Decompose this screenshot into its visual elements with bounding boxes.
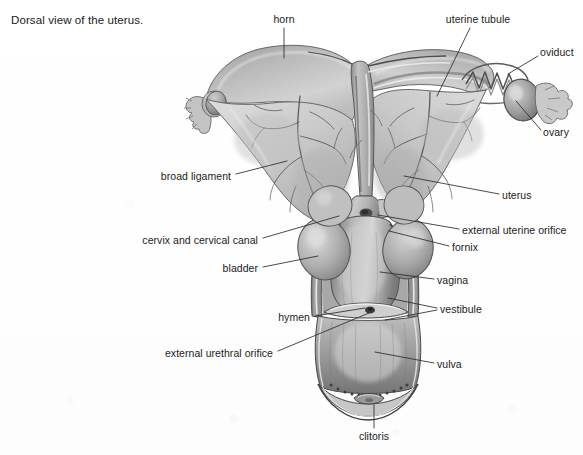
label-external-urethral-orifice: external urethral orifice [0,348,273,359]
label-clitoris: clitoris [314,431,434,442]
right-ovary [500,76,572,125]
vestibule [315,316,421,394]
label-uterine-tubule: uterine tubule [418,14,538,25]
label-fornix: fornix [452,242,478,253]
label-cervix-and-cervical-canal: cervix and cervical canal [0,235,258,246]
broad-ligament-right [366,90,486,214]
label-hymen: hymen [0,312,310,323]
label-horn: horn [224,14,344,25]
label-bladder: bladder [0,263,258,274]
clitoris [354,394,384,405]
label-uterus: uterus [502,190,531,201]
label-external-uterine-orifice: external uterine orifice [462,225,567,236]
label-vestibule: vestibule [440,304,482,315]
label-broad-ligament: broad ligament [0,171,231,182]
label-vulva: vulva [437,359,462,370]
label-ovary: ovary [543,127,569,138]
label-oviduct: oviduct [540,47,574,58]
label-vagina: vagina [437,275,468,286]
figure-page: Dorsal view of the uterus. [0,0,583,455]
